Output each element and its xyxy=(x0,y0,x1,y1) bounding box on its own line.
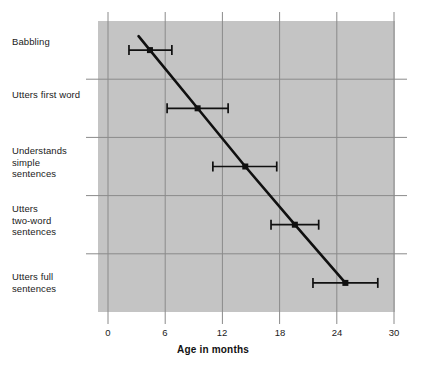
category-label-utters-two-word-sentences: Utters two-word sentences xyxy=(12,203,96,238)
category-label-understands-simple-sentences: Understands simple sentences xyxy=(12,145,96,180)
x-tick-label-30: 30 xyxy=(379,327,409,338)
x-tick-label-18: 18 xyxy=(265,327,295,338)
x-tick-label-0: 0 xyxy=(93,327,123,338)
x-axis-tick-marks xyxy=(108,318,394,324)
chart-figure: Babbling Utters first word Understands s… xyxy=(0,0,426,366)
data-point-marker-0 xyxy=(147,47,153,53)
data-point-marker-1 xyxy=(195,105,201,111)
data-point-marker-3 xyxy=(292,222,298,228)
category-label-utters-full-sentences: Utters full sentences xyxy=(12,271,96,294)
data-point-marker-4 xyxy=(342,280,348,286)
x-tick-label-12: 12 xyxy=(207,327,237,338)
x-tick-label-24: 24 xyxy=(322,327,352,338)
category-label-utters-first-word: Utters first word xyxy=(12,89,98,101)
x-tick-label-6: 6 xyxy=(150,327,180,338)
category-label-babbling: Babbling xyxy=(12,36,96,48)
chart-canvas xyxy=(0,0,426,366)
x-axis-title: Age in months xyxy=(0,344,426,355)
data-point-marker-2 xyxy=(242,164,248,170)
